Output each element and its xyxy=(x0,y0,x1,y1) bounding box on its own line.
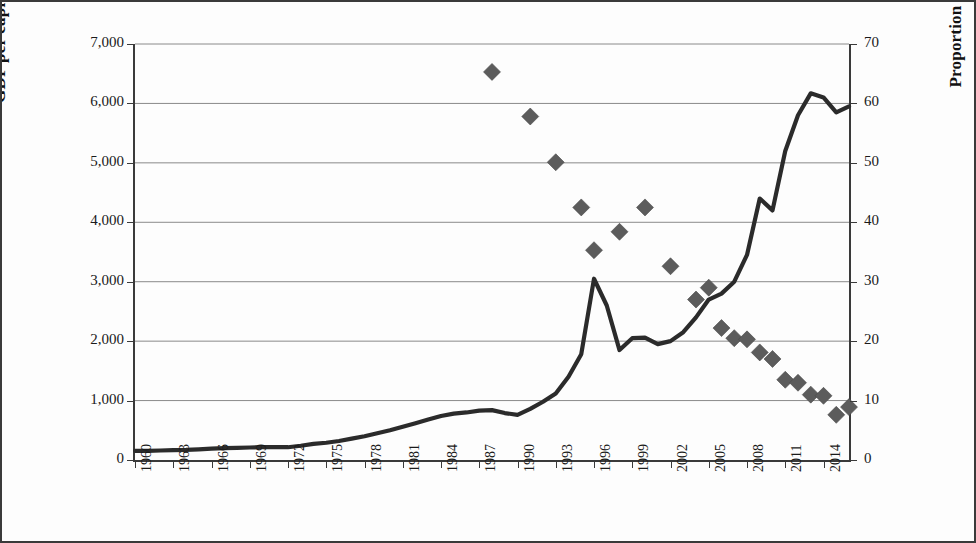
x-axis-tick xyxy=(212,461,213,468)
x-axis-tick-label: 1966 xyxy=(216,444,232,472)
y-axis-right-tick-label: 20 xyxy=(864,331,879,348)
x-axis-tick-label: 1963 xyxy=(177,444,193,472)
y-axis-right-tick-labels: 010203040506070 xyxy=(864,44,924,460)
y-axis-right-tick xyxy=(850,44,857,45)
y-axis-left-tick-label: 4,000 xyxy=(90,212,124,229)
x-axis-tick-labels: 1960196319661969197219751978198119841987… xyxy=(133,472,847,542)
y-axis-right-tick-label: 50 xyxy=(864,153,879,170)
x-axis-tick xyxy=(250,461,251,468)
scatter-marker xyxy=(713,320,730,337)
plot-area xyxy=(133,44,851,462)
y-axis-left-tick xyxy=(127,163,134,164)
x-axis-tick xyxy=(403,461,404,468)
scatter-marker xyxy=(547,154,564,171)
x-axis-tick-label: 1987 xyxy=(483,444,499,472)
scatter-marker xyxy=(739,331,756,348)
x-axis-tick-label: 1960 xyxy=(139,444,155,472)
scatter-marker xyxy=(586,242,603,259)
scatter-marker xyxy=(637,199,654,216)
x-axis-tick xyxy=(441,461,442,468)
y-axis-left-tick xyxy=(127,44,134,45)
poverty-scatter-markers xyxy=(484,63,858,423)
y-axis-left-tick xyxy=(127,401,134,402)
x-axis-tick xyxy=(365,461,366,468)
y-axis-right-title: Proportion of the poor (%) xyxy=(946,0,966,137)
y-axis-right-tick xyxy=(850,401,857,402)
y-axis-left-tick-label: 7,000 xyxy=(90,34,124,51)
y-axis-left-tick-label: 1,000 xyxy=(90,391,124,408)
y-axis-right-tick-label: 0 xyxy=(864,450,872,467)
x-axis-tick xyxy=(518,461,519,468)
x-axis-tick xyxy=(173,461,174,468)
x-axis-tick-label: 1969 xyxy=(254,444,270,472)
scatter-marker xyxy=(815,387,832,404)
y-axis-left-tick-label: 5,000 xyxy=(90,153,124,170)
x-axis-tick-label: 1984 xyxy=(445,444,461,472)
x-axis-tick-label: 2005 xyxy=(713,444,729,472)
x-axis-tick xyxy=(785,461,786,468)
y-axis-left-tick xyxy=(127,460,134,461)
y-axis-left-tick-labels: 01,0002,0003,0004,0005,0006,0007,000 xyxy=(54,44,124,460)
x-axis-tick-label: 1999 xyxy=(636,444,652,472)
y-axis-left-tick-label: 2,000 xyxy=(90,331,124,348)
x-axis-tick xyxy=(671,461,672,468)
scatter-marker xyxy=(484,63,501,80)
gridlines xyxy=(135,44,849,401)
y-axis-left-tick-label: 0 xyxy=(117,450,125,467)
chart-canvas xyxy=(135,44,849,460)
y-axis-left-tick-label: 6,000 xyxy=(90,93,124,110)
x-axis-tick xyxy=(632,461,633,468)
y-axis-left-title: GDP per capita (US$) xyxy=(0,0,10,152)
x-axis-tick xyxy=(556,461,557,468)
scatter-marker xyxy=(662,258,679,275)
y-axis-right-tick xyxy=(850,282,857,283)
x-axis-tick xyxy=(824,461,825,468)
y-axis-right-tick xyxy=(850,163,857,164)
y-axis-right-tick-label: 10 xyxy=(864,391,879,408)
scatter-marker xyxy=(611,223,628,240)
y-axis-right-tick-label: 30 xyxy=(864,272,879,289)
x-axis-tick-label: 1972 xyxy=(292,444,308,472)
x-axis-tick xyxy=(135,461,136,468)
x-axis-tick-label: 1996 xyxy=(598,444,614,472)
scatter-marker xyxy=(573,199,590,216)
x-axis-tick-label: 2002 xyxy=(675,444,691,472)
x-axis-tick-label: 1993 xyxy=(560,444,576,472)
y-axis-right-tick-label: 60 xyxy=(864,93,879,110)
y-axis-left-tick xyxy=(127,282,134,283)
x-axis-tick xyxy=(479,461,480,468)
x-axis-tick-label: 2014 xyxy=(828,444,844,472)
y-axis-right-tick xyxy=(850,103,857,104)
x-axis-tick-label: 2008 xyxy=(751,444,767,472)
x-axis-tick xyxy=(288,461,289,468)
y-axis-right-tick-label: 40 xyxy=(864,212,879,229)
x-axis-tick-label: 1981 xyxy=(407,444,423,472)
x-axis-tick-label: 2011 xyxy=(789,445,805,472)
y-axis-left-tick xyxy=(127,222,134,223)
gdp-per-capita-line xyxy=(135,93,849,450)
x-axis-tick-label: 1978 xyxy=(369,444,385,472)
y-axis-left-tick xyxy=(127,341,134,342)
y-axis-right-tick xyxy=(850,341,857,342)
y-axis-left-tick-label: 3,000 xyxy=(90,272,124,289)
scatter-marker xyxy=(522,108,539,125)
y-axis-right-tick xyxy=(850,222,857,223)
x-axis-tick-label: 1990 xyxy=(522,444,538,472)
y-axis-right-tick-label: 70 xyxy=(864,34,879,51)
x-axis-tick-label: 1975 xyxy=(330,444,346,472)
x-axis-tick xyxy=(326,461,327,468)
x-axis-tick xyxy=(594,461,595,468)
x-axis-tick xyxy=(709,461,710,468)
y-axis-left-tick xyxy=(127,103,134,104)
scatter-marker xyxy=(790,374,807,391)
chart-frame: GDP per capita (US$) Proportion of the p… xyxy=(0,0,976,543)
y-axis-right-tick xyxy=(850,460,857,461)
scatter-marker xyxy=(777,371,794,388)
x-axis-tick xyxy=(747,461,748,468)
